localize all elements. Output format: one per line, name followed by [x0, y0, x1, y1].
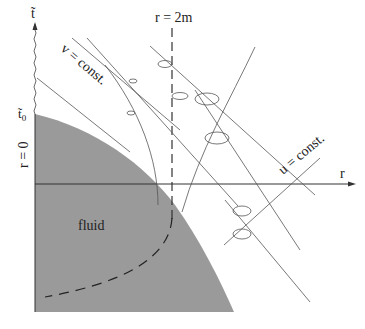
- light-cone-5: [195, 93, 219, 105]
- singularity-wavy-line: [34, 24, 36, 114]
- light-cone-1: [129, 79, 137, 83]
- light-cone-4: [172, 93, 188, 100]
- v-const-line-2: [72, 38, 180, 130]
- fluid-label: fluid: [78, 218, 104, 233]
- u-const-line: [224, 158, 320, 245]
- r-zero-label: r = 0: [16, 141, 31, 168]
- outgoing-curve-2: [182, 47, 255, 212]
- u-const-label: u = const.: [275, 130, 327, 177]
- t0-label: t̃0: [18, 106, 27, 123]
- t-axis-arrow-icon: [33, 22, 38, 30]
- spacetime-diagram: t̃ t̃0 r = 0 r r = 2m v = const. u = con…: [0, 0, 365, 329]
- t-axis-label: t̃: [31, 6, 36, 21]
- light-cone-6: [205, 132, 229, 144]
- light-cone-7: [233, 206, 251, 216]
- r-axis-label: r: [340, 166, 345, 181]
- fluid-region: [35, 114, 234, 312]
- horizon-label: r = 2m: [155, 10, 193, 25]
- light-cone-2: [127, 111, 135, 115]
- r-axis-arrow-icon: [348, 182, 356, 187]
